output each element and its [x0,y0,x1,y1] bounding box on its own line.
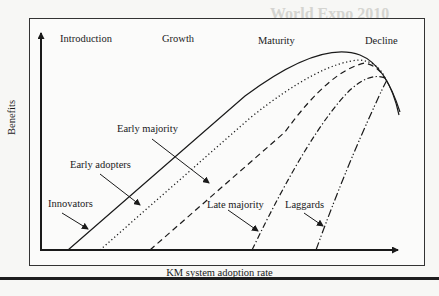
curve-early-adopters [100,60,385,250]
label-late-majority: Late majority [207,199,264,210]
curve-laggards [316,80,387,250]
arrow-laggards [304,213,323,226]
stage-maturity: Maturity [258,35,295,46]
arrow-innovators [62,213,88,229]
stage-growth: Growth [162,33,194,44]
arrow-late-majority [228,210,258,231]
label-early-majority: Early majority [117,123,178,134]
label-innovators: Innovators [48,198,93,209]
stage-decline: Decline [365,35,398,46]
page-rule [0,277,439,280]
curve-late-majority [252,77,385,251]
y-axis-label: Benefits [6,100,17,135]
label-early-adopters: Early adopters [70,159,131,170]
arrow-early-adopters [100,174,140,205]
label-laggards: Laggards [285,199,324,210]
decline-tail [385,78,399,115]
curve-innovators [68,52,400,250]
stage-introduction: Introduction [60,33,112,44]
arrow-early-majority [152,139,209,183]
